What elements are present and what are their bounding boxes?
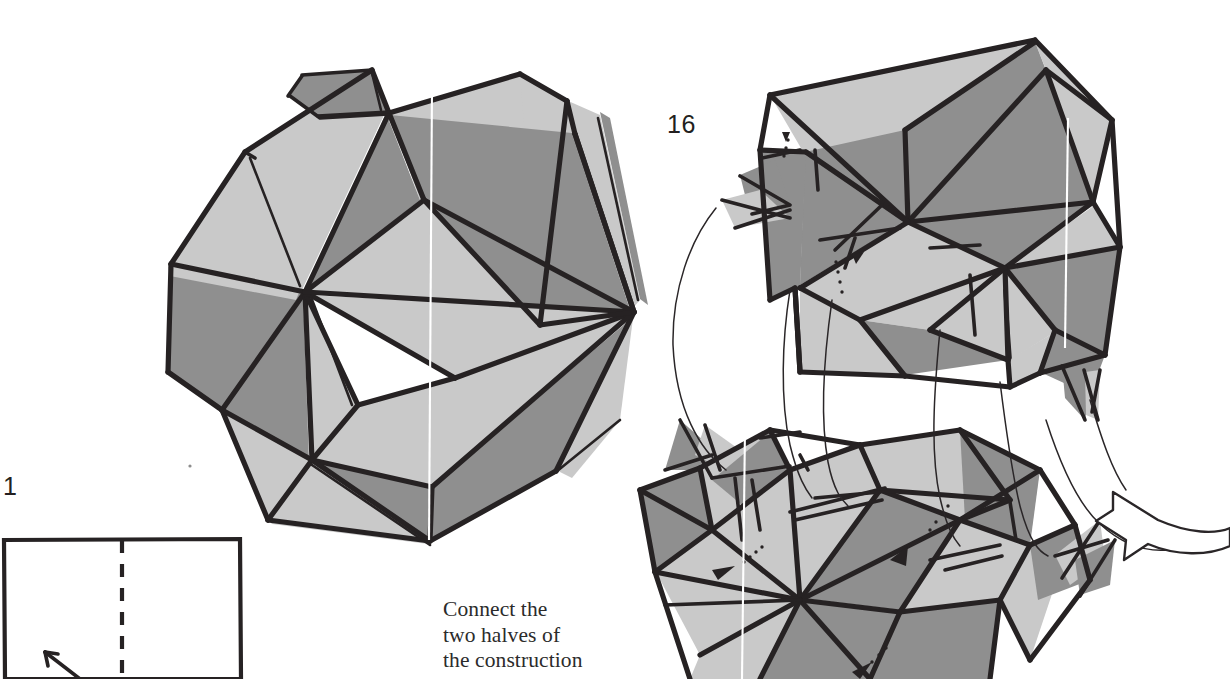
figure-upper-half	[722, 40, 1120, 420]
instruction-caption: Connect the two halves of the constructi…	[443, 597, 653, 674]
step-number-16: 16	[667, 112, 696, 137]
figure-square-sheet	[4, 539, 241, 679]
origami-instruction-page: .lf{fill:#c9c9c9;} .df{fill:#8f8f8f;} .m…	[0, 0, 1230, 679]
step-number-1: 1	[3, 474, 17, 499]
instruction-artwork: .lf{fill:#c9c9c9;} .df{fill:#8f8f8f;} .m…	[0, 0, 1230, 679]
join-arrow	[1096, 492, 1230, 560]
figure-lower-half	[640, 420, 1115, 679]
figure-assembled-model	[168, 70, 648, 545]
caption-line-1: Connect the	[443, 597, 653, 623]
caption-line-3: the construction	[443, 648, 653, 674]
caption-line-2: two halves of	[443, 623, 653, 649]
